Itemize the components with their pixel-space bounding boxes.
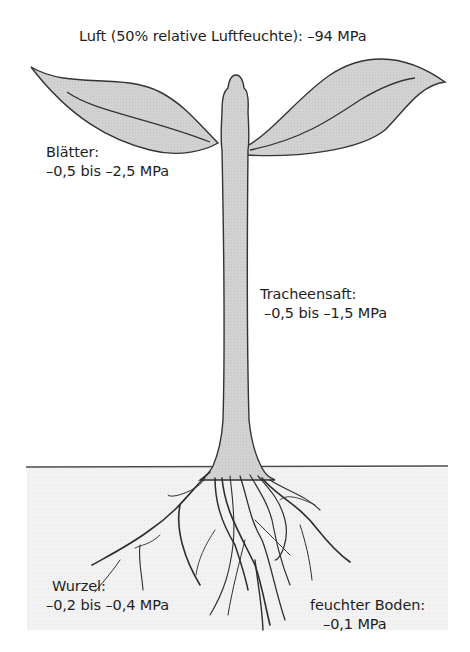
soil-label: feuchter Boden: –0,1 MPa	[310, 596, 425, 634]
roots-label: Wurzel: –0,2 bis –0,4 MPa	[46, 577, 169, 615]
xylem-title: Tracheensaft:	[260, 285, 387, 304]
plant-water-potential-diagram	[0, 0, 470, 652]
roots-value: –0,2 bis –0,4 MPa	[46, 596, 169, 615]
xylem-value: –0,5 bis –1,5 MPa	[260, 304, 387, 323]
right-leaf	[245, 59, 445, 156]
soil-value: –0,1 MPa	[310, 615, 425, 634]
soil-title: feuchter Boden:	[310, 596, 425, 615]
xylem-label: Tracheensaft: –0,5 bis –1,5 MPa	[260, 285, 387, 323]
leaves-label: Blätter: –0,5 bis –2,5 MPa	[46, 143, 169, 181]
left-leaf	[31, 67, 218, 153]
leaves-title: Blätter:	[46, 143, 169, 162]
air-label: Luft (50% relative Luftfeuchte): –94 MPa	[79, 27, 366, 46]
air-potential-text: Luft (50% relative Luftfeuchte): –94 MPa	[79, 27, 366, 46]
roots-title: Wurzel:	[46, 577, 169, 596]
leaves-value: –0,5 bis –2,5 MPa	[46, 162, 169, 181]
